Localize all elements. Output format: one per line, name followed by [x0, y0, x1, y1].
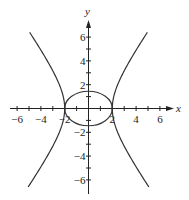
- y-tick-label: −4: [74, 150, 86, 162]
- x-axis: x −6−4−2246: [10, 102, 181, 125]
- chart: x −6−4−2246 y 642−2−4−6: [0, 0, 189, 200]
- y-axis-arrow-icon: [86, 20, 91, 28]
- x-tick-label: −4: [35, 113, 47, 125]
- x-tick-label: 4: [133, 113, 139, 125]
- y-axis: y 642−2−4−6: [74, 5, 91, 194]
- y-tick-label: 6: [80, 31, 86, 43]
- hyperbola-left-branch: [28, 32, 65, 187]
- x-tick-label: −6: [11, 113, 23, 125]
- x-axis-arrow-icon: [166, 106, 174, 111]
- y-axis-label: y: [84, 5, 90, 17]
- hyperbola-right-branch: [112, 32, 149, 187]
- y-tick-label: −6: [74, 174, 86, 186]
- y-tick-label: 4: [80, 55, 86, 67]
- y-tick-label: −2: [74, 126, 86, 138]
- x-tick-labels: −6−4−2246: [11, 113, 163, 125]
- x-axis-label: x: [175, 102, 181, 114]
- y-tick-label: 2: [80, 79, 86, 91]
- x-tick-label: 6: [157, 113, 163, 125]
